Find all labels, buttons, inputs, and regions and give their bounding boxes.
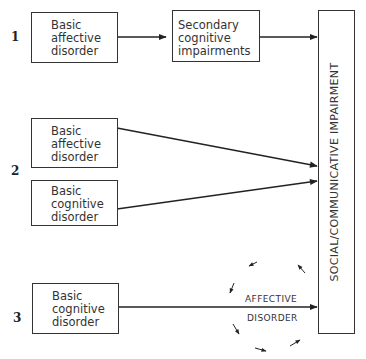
model-number-3: 3 (13, 311, 21, 325)
box-basic-affective-disorder-2: Basic affective disorder (31, 118, 118, 168)
box-line: disorder (52, 316, 105, 329)
box-line: impairments (178, 45, 251, 58)
cycle-label-disorder: DISORDER (247, 313, 298, 323)
model-number-2: 2 (11, 164, 19, 178)
box-line: disorder (51, 211, 104, 224)
box-line: disorder (51, 45, 101, 58)
cycle-label-affective: AFFECTIVE (245, 294, 297, 304)
box-secondary-cognitive-impairments: Secondary cognitive impairments (172, 10, 260, 62)
arrow-m2-b (117, 181, 317, 209)
box-line: disorder (51, 151, 101, 164)
box-basic-cognitive-disorder-3: Basic cognitive disorder (32, 283, 119, 334)
box-basic-affective-disorder-1: Basic affective disorder (31, 12, 118, 63)
model-number-1: 1 (11, 30, 19, 44)
arrow-m2-a (117, 128, 317, 166)
box-basic-cognitive-disorder-2: Basic cognitive disorder (31, 180, 118, 226)
outcome-label: SOCIAL/COMMUNICATIVE IMPAIRMENT (328, 22, 344, 322)
